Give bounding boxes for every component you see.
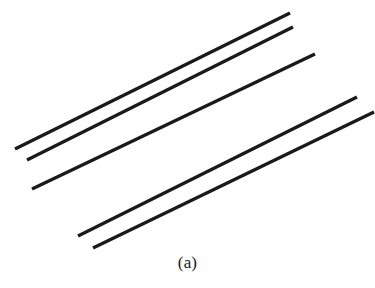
figure-caption: (a) [0,252,375,274]
figure-panel: (a) [0,0,375,288]
line-drawing-canvas [0,0,375,288]
